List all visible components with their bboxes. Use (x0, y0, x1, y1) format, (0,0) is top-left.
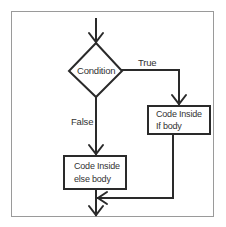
else-body-line1: Code Inside (74, 160, 120, 173)
entry-arrow (89, 19, 103, 42)
else-body-line2: else body (74, 173, 111, 186)
true-label: True (138, 57, 156, 69)
if-body-line1: Code Inside (156, 108, 202, 121)
exit-arrow (89, 189, 103, 215)
false-label: False (71, 116, 93, 128)
condition-label: Condition (77, 65, 115, 77)
if-body-line2: If body (156, 120, 182, 133)
true-branch-arrow (122, 70, 186, 104)
